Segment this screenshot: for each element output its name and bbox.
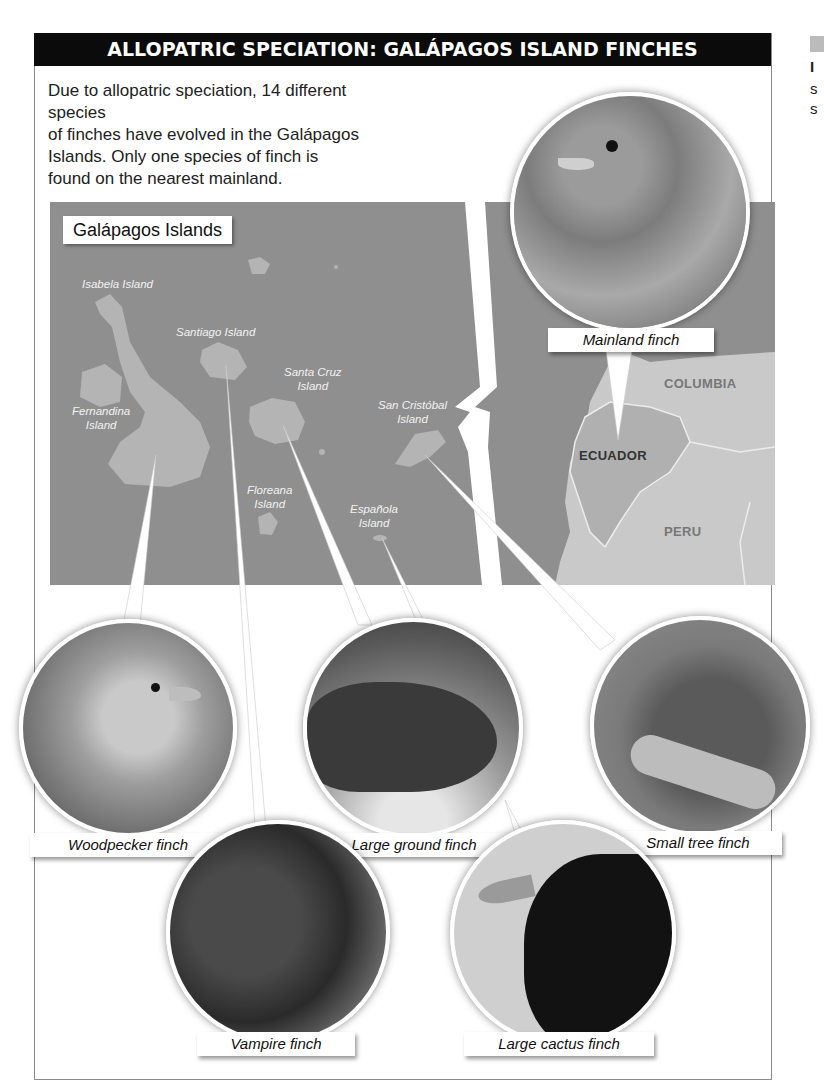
photo-mainland-finch (510, 92, 750, 332)
pointer-small-tree (425, 455, 615, 650)
caption-mainland-finch: Mainland finch (548, 328, 714, 352)
caption-vampire-finch: Vampire finch (197, 1032, 355, 1056)
photo-small-tree-finch (590, 616, 810, 836)
photo-vampire-finch (166, 820, 390, 1044)
pointer-large-cactus-a (382, 538, 426, 625)
photo-large-cactus-finch (450, 820, 676, 1046)
caption-large-cactus-finch: Large cactus finch (464, 1032, 654, 1056)
pointer-woodpecker (123, 455, 156, 625)
pointer-mainland (606, 350, 632, 440)
photo-woodpecker-finch (19, 619, 237, 837)
photo-large-ground-finch (303, 618, 523, 838)
pointer-large-ground (283, 425, 372, 625)
